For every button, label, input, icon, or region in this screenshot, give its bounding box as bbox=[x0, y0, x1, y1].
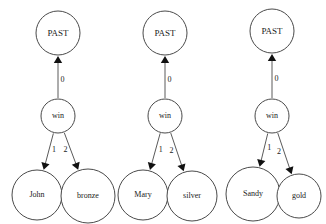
node-sandy[interactable]: Sandy bbox=[226, 167, 280, 221]
edge-win-1-to-john-label: 1 bbox=[52, 145, 56, 154]
graph-svg: PASTwinJohnbronzePASTwinMarysilverPASTwi… bbox=[0, 0, 326, 224]
node-bronze[interactable]: bronze bbox=[61, 169, 115, 223]
edge-win-3-to-sandy-label: 1 bbox=[267, 143, 271, 152]
node-past-3-label: PAST bbox=[261, 26, 283, 36]
edge-win-2-to-past-2-arrowhead bbox=[161, 56, 169, 63]
nodes-layer: PASTwinJohnbronzePASTwinMarysilverPASTwi… bbox=[12, 9, 321, 223]
node-win-1[interactable]: win bbox=[41, 99, 75, 133]
node-win-2[interactable]: win bbox=[148, 99, 182, 133]
node-past-1-label: PAST bbox=[47, 28, 69, 38]
node-win-2-label: win bbox=[159, 111, 171, 120]
edge-win-2-to-silver-label: 2 bbox=[170, 146, 174, 155]
node-mary-label: Mary bbox=[134, 190, 151, 199]
edge-win-1-to-past-1-arrowhead bbox=[54, 56, 62, 63]
edge-win-1-to-john-arrowhead bbox=[41, 162, 49, 170]
edge-win-3-to-past-3-arrowhead bbox=[268, 54, 276, 61]
node-win-3[interactable]: win bbox=[255, 99, 289, 133]
node-john-label: John bbox=[29, 190, 44, 199]
node-mary[interactable]: Mary bbox=[118, 170, 168, 220]
node-bronze-label: bronze bbox=[77, 191, 99, 200]
node-gold-label: gold bbox=[292, 191, 306, 200]
edge-win-3-to-sandy-arrowhead bbox=[257, 159, 265, 167]
edge-win-3-to-past-3-label: 0 bbox=[275, 74, 279, 83]
node-past-3[interactable]: PAST bbox=[250, 9, 294, 53]
node-silver[interactable]: silver bbox=[167, 171, 217, 221]
edge-win-2-to-mary-arrowhead bbox=[148, 162, 156, 170]
node-john[interactable]: John bbox=[12, 170, 62, 220]
edge-win-1-to-past-1-label: 0 bbox=[61, 75, 65, 84]
node-silver-label: silver bbox=[183, 191, 201, 200]
node-past-2-label: PAST bbox=[154, 28, 176, 38]
node-win-1-label: win bbox=[52, 111, 64, 120]
dependency-graph-canvas: PASTwinJohnbronzePASTwinMarysilverPASTwi… bbox=[0, 0, 326, 224]
node-gold[interactable]: gold bbox=[277, 174, 321, 218]
node-sandy-label: Sandy bbox=[243, 189, 263, 198]
edge-win-3-to-gold-label: 2 bbox=[277, 147, 281, 156]
edge-win-2-to-past-2-label: 0 bbox=[168, 75, 172, 84]
edge-win-2-to-mary-label: 1 bbox=[159, 145, 163, 154]
edge-win-1-to-bronze-label: 2 bbox=[64, 145, 68, 154]
node-win-3-label: win bbox=[266, 111, 278, 120]
node-past-2[interactable]: PAST bbox=[143, 11, 187, 55]
node-past-1[interactable]: PAST bbox=[36, 11, 80, 55]
